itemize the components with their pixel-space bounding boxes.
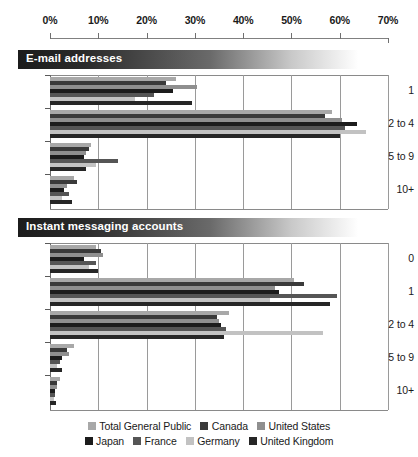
legend-label: Canada xyxy=(212,420,248,432)
plot-frame-bottom xyxy=(50,410,388,411)
bar-united-kingdom xyxy=(50,368,62,372)
legend-swatch-icon xyxy=(200,422,208,430)
x-axis-tick-label: 40% xyxy=(233,14,253,26)
legend-item: Japan xyxy=(85,435,125,447)
x-axis-tick xyxy=(388,38,389,43)
legend-label: Japan xyxy=(96,435,124,447)
category-tick xyxy=(45,309,50,310)
plot-frame-top xyxy=(50,75,388,76)
legend-item: France xyxy=(133,435,177,447)
legend-swatch-icon xyxy=(133,437,141,445)
grouped-bar-chart: 0%10%20%30%40%50%60%70%E-mail addresses1… xyxy=(0,0,418,457)
legend-row: JapanFranceGermanyUnited Kingdom xyxy=(0,433,418,448)
bar-united-kingdom xyxy=(50,302,330,306)
category-label: 1 xyxy=(408,285,414,297)
category-tick xyxy=(45,243,50,244)
category-label: 1 xyxy=(408,84,414,96)
category-label: 2 to 4 xyxy=(388,318,414,330)
legend-label: France xyxy=(145,435,177,447)
legend-item: United Kingdom xyxy=(249,435,334,447)
x-axis-tick-label: 50% xyxy=(281,14,301,26)
category-tick xyxy=(45,174,50,175)
bar-united-kingdom xyxy=(50,269,98,273)
gridline xyxy=(340,243,341,410)
x-axis-tick-label: 20% xyxy=(136,14,156,26)
bar-united-kingdom xyxy=(50,167,86,171)
x-axis-tick xyxy=(291,33,292,39)
legend-label: United States xyxy=(268,420,330,432)
section-header-title: E-mail addresses xyxy=(26,52,122,64)
category-label: 2 to 4 xyxy=(388,117,414,129)
legend-swatch-icon xyxy=(249,437,257,445)
gridline xyxy=(291,243,292,410)
x-axis-tick-label: 70% xyxy=(378,14,398,26)
x-axis-tick xyxy=(243,33,244,39)
x-axis-tick xyxy=(98,33,99,39)
legend-row: Total General PublicCanadaUnited States xyxy=(0,418,418,433)
x-axis-tick-label: 30% xyxy=(185,14,205,26)
plot-frame-top xyxy=(50,243,388,244)
legend-label: United Kingdom xyxy=(260,435,333,447)
legend-label: Total General Public xyxy=(99,420,191,432)
category-label: 5 to 9 xyxy=(388,351,414,363)
category-label: 0 xyxy=(408,252,414,264)
category-tick xyxy=(45,75,50,76)
x-axis-tick-label: 10% xyxy=(88,14,108,26)
category-tick xyxy=(45,276,50,277)
legend-item: Canada xyxy=(200,420,248,432)
x-axis-tick xyxy=(340,33,341,39)
legend-swatch-icon xyxy=(257,422,265,430)
x-axis-labels: 0%10%20%30%40%50%60%70% xyxy=(0,14,418,30)
legend-label: Germany xyxy=(197,435,239,447)
gridline xyxy=(340,75,341,209)
gridline xyxy=(243,243,244,410)
bar-united-kingdom xyxy=(50,200,72,204)
legend-swatch-icon xyxy=(186,437,194,445)
x-axis-tick-label: 0% xyxy=(43,14,58,26)
legend-item: United States xyxy=(257,420,330,432)
legend-item: Total General Public xyxy=(88,420,191,432)
legend-swatch-icon xyxy=(85,437,93,445)
legend-item: Germany xyxy=(186,435,240,447)
category-label: 10+ xyxy=(396,183,414,195)
gridline xyxy=(243,75,244,209)
section-header-title: Instant messaging accounts xyxy=(26,220,183,232)
bar-united-kingdom xyxy=(50,335,224,339)
x-axis-tick xyxy=(147,33,148,39)
category-label: 5 to 9 xyxy=(388,150,414,162)
section-header-1: Instant messaging accounts xyxy=(18,218,388,237)
x-axis-tick xyxy=(195,33,196,39)
legend-swatch-icon xyxy=(88,422,96,430)
gridline xyxy=(195,75,196,209)
bar-united-kingdom xyxy=(50,134,340,138)
plot-frame-bottom xyxy=(50,209,388,210)
bar-united-kingdom xyxy=(50,101,192,105)
category-label: 10+ xyxy=(396,384,414,396)
gridline xyxy=(291,75,292,209)
gridline xyxy=(388,75,389,209)
bar-united-kingdom xyxy=(50,401,56,405)
x-axis-tick xyxy=(50,33,51,39)
x-axis-tick-label: 60% xyxy=(329,14,349,26)
category-tick xyxy=(45,375,50,376)
section-header-0: E-mail addresses xyxy=(18,50,388,69)
category-tick xyxy=(45,342,50,343)
x-axis-line xyxy=(50,38,388,39)
chart-legend: Total General PublicCanadaUnited StatesJ… xyxy=(0,418,418,448)
category-tick xyxy=(45,108,50,109)
category-tick xyxy=(45,141,50,142)
